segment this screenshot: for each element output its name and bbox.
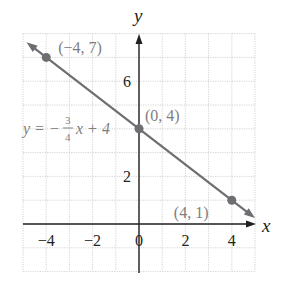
x-tick-label: −4: [38, 232, 55, 249]
x-tick-label: 2: [181, 232, 189, 249]
tick-labels: −4−202426: [38, 73, 236, 249]
x-tick-label: 4: [228, 232, 236, 249]
equation-denominator: 4: [65, 131, 71, 143]
y-axis-arrow-icon: [136, 34, 143, 44]
x-tick-label: −2: [84, 232, 101, 249]
data-point: [135, 124, 144, 133]
data-point: [42, 53, 51, 62]
equation-lhs: y = −: [21, 120, 60, 138]
point-label: (0, 4): [145, 107, 180, 125]
point-label: (−4, 7): [58, 39, 102, 57]
equation-rhs: x + 4: [75, 120, 110, 137]
x-axis-arrow-icon: [246, 221, 256, 228]
equation-numerator: 3: [65, 114, 71, 126]
line-graph: −4−202426 x y (−4, 7)(0, 4)(4, 1) y = − …: [0, 0, 288, 287]
equation-label: y = − 3 4 x + 4: [21, 114, 110, 143]
data-point: [227, 196, 236, 205]
x-axis-label: x: [261, 215, 271, 236]
y-tick-label: 6: [123, 73, 131, 90]
y-tick-label: 2: [123, 168, 131, 185]
y-axis-label: y: [132, 5, 143, 26]
x-tick-label: 0: [135, 232, 143, 249]
point-label: (4, 1): [174, 204, 209, 222]
